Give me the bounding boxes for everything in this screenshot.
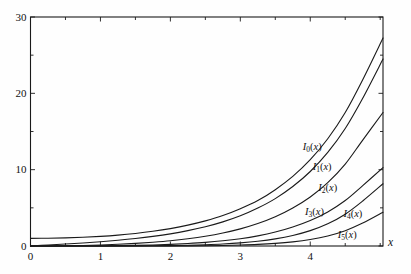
x-tick-label-4: 4 [298,251,322,262]
curve-label-i0: I0(x) [303,142,322,153]
data-curves [31,38,384,246]
curve-i3x [31,168,384,246]
x-axis-label: x [388,237,393,249]
axis-ticks [31,17,384,246]
axes-frame [31,17,384,246]
y-tick-label-20: 20 [0,88,27,99]
y-tick-label-10: 10 [0,164,27,175]
y-tick-label-0: 0 [0,241,27,252]
curve-label-i5: I5(x) [338,230,357,241]
curve-label-i2: I2(x) [318,183,337,194]
curve-i1x [31,59,384,246]
curve-i0x [31,38,384,238]
curve-label-i3: I3(x) [305,207,324,218]
bessel-function-chart: 0 10 20 30 0 1 2 3 4 x I0(x)I1(x)I2(x)I3… [0,0,411,274]
x-tick-label-2: 2 [158,251,182,262]
curve-label-i4: I4(x) [343,209,362,220]
x-tick-label-1: 1 [88,251,112,262]
x-tick-label-3: 3 [228,251,252,262]
curve-i5x [31,212,384,246]
curve-label-i1: I1(x) [313,162,332,173]
y-tick-label-30: 30 [0,12,27,23]
x-tick-label-0: 0 [19,251,43,262]
